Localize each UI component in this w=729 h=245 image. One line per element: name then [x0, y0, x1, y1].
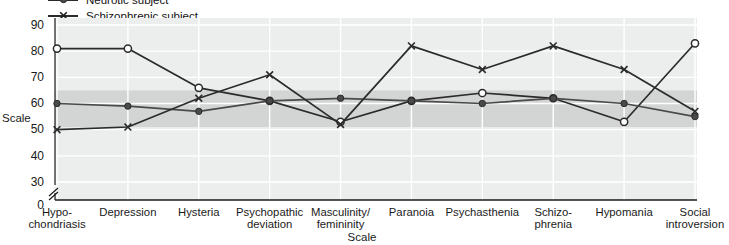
data-point-open-circle-0-1 — [124, 45, 131, 52]
data-point-filled-circle-1-2 — [196, 108, 202, 114]
x-category-label-line1: Social — [640, 207, 729, 219]
data-point-open-circle-0-8 — [621, 118, 628, 125]
x-category-label-line2: chondriasis — [2, 219, 112, 231]
x-category-label-line2: introversion — [640, 219, 729, 231]
data-point-filled-circle-1-1 — [125, 103, 131, 109]
x-category-label-line2: phrenia — [498, 219, 608, 231]
data-point-open-circle-0-9 — [691, 40, 698, 47]
data-point-filled-circle-1-3 — [266, 98, 272, 104]
data-point-filled-circle-1-7 — [550, 95, 556, 101]
data-point-open-circle-0-0 — [53, 45, 60, 52]
normal-range-band — [55, 90, 697, 127]
x-category-label-line2: femininity — [286, 219, 396, 231]
data-point-open-circle-0-2 — [195, 84, 202, 91]
data-point-open-circle-0-6 — [479, 89, 486, 96]
data-point-filled-circle-1-8 — [621, 100, 627, 106]
data-point-filled-circle-1-6 — [479, 100, 485, 106]
data-point-filled-circle-1-0 — [54, 100, 60, 106]
data-point-filled-circle-1-4 — [337, 95, 343, 101]
data-point-filled-circle-1-5 — [408, 98, 414, 104]
x-axis-title: Scale — [0, 231, 724, 243]
x-category-label-9: Socialintroversion — [640, 207, 729, 230]
